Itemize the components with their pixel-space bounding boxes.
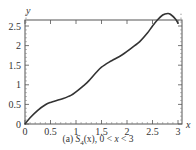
- axis-ticks: [25, 14, 182, 124]
- y-tick-label: 1: [16, 79, 21, 90]
- caption-arg: (x), 0 <: [84, 134, 115, 144]
- y-tick-label: 0: [16, 119, 21, 130]
- caption-suffix: < 3: [119, 134, 134, 144]
- tick-labels: 00.511.522.5300.511.522.5: [9, 21, 181, 138]
- s4-curve: [25, 13, 178, 124]
- y-axis-label: y: [25, 5, 31, 16]
- y-tick-label: 2: [16, 40, 21, 51]
- caption-prefix: (a): [63, 134, 76, 144]
- y-tick-label: 0.5: [9, 99, 22, 110]
- y-tick-label: 2.5: [9, 21, 22, 32]
- x-axis-label: x: [185, 119, 191, 130]
- chart-area: 00.511.522.5300.511.522.5 y x: [0, 0, 196, 150]
- figure-caption: (a) S4(x), 0 < x < 3: [0, 134, 196, 147]
- y-tick-label: 1.5: [9, 60, 22, 71]
- plot-frame: [25, 20, 182, 124]
